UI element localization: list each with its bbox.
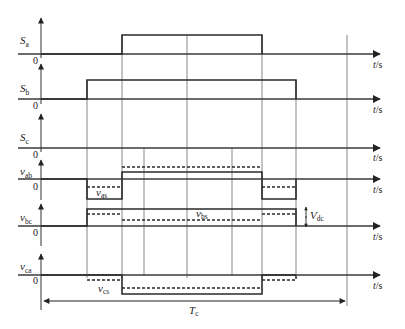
sc-label: Sc — [20, 131, 30, 146]
vab-time-axis-label: t/s — [373, 184, 383, 195]
sc-zero-label: 0 — [33, 149, 38, 160]
vca-label: vca — [20, 260, 32, 275]
sb-time-axis-label: t/s — [373, 104, 383, 115]
channel-vbc: Vdc vbc 0 vbs t/s — [18, 204, 383, 246]
switching-waveform-diagram: Sa 0 t/s Sb 0 t/s Sc 0 t/s vab 0 vas t/s — [0, 0, 405, 329]
vdc-annotation: Vdc — [310, 209, 324, 223]
sa-time-axis-label: t/s — [373, 59, 383, 70]
channel-sc: Sc 0 t/s — [18, 114, 383, 163]
sa-label: Sa — [20, 34, 30, 49]
sb-label: Sb — [20, 82, 30, 97]
channel-vab: vab 0 vas t/s — [18, 160, 383, 200]
switch-instant-gridlines — [87, 35, 347, 306]
vab-label: vab — [20, 165, 32, 180]
vca-zero-label: 0 — [33, 275, 38, 286]
sb-zero-label: 0 — [33, 100, 38, 111]
vab-zero-label: 0 — [33, 181, 38, 192]
sa-zero-label: 0 — [33, 55, 38, 66]
vbc-label: vbc — [20, 211, 33, 226]
sc-time-axis-label: t/s — [373, 152, 383, 163]
vca-time-axis-label: t/s — [373, 280, 383, 291]
period-indicator: Tc — [44, 301, 345, 318]
period-label: Tc — [189, 304, 199, 318]
channel-sa: Sa 0 t/s — [18, 18, 383, 70]
vas-annotation: vas — [96, 186, 107, 200]
vbc-time-axis-label: t/s — [373, 231, 383, 242]
channel-sb: Sb 0 t/s — [18, 64, 383, 115]
channel-vca: vca 0 vcs t/s — [18, 254, 383, 310]
vbc-zero-label: 0 — [33, 227, 38, 238]
vcs-annotation: vcs — [98, 282, 109, 296]
